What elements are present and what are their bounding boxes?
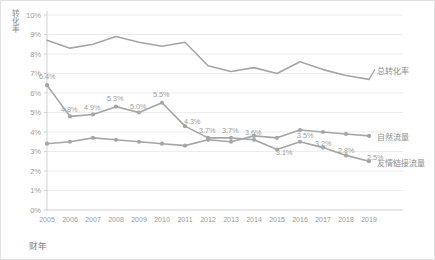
series-leader-line [369,69,375,79]
data-point-marker [344,132,348,136]
line-chart-container: 转化率 财年 0%1%2%3%4%5%6%7%8%9%10% 200520062… [0,0,435,260]
data-point-marker [114,138,118,142]
series-label-0: 总转化率 [377,65,409,76]
data-label: 3.7% [199,126,215,135]
data-point-marker [91,136,95,140]
series-label-2: 自然流量 [377,131,409,142]
data-label: 5.3% [107,94,123,103]
data-point-marker [160,142,164,146]
series-line-1 [47,85,369,161]
data-point-marker [160,101,164,105]
data-label: 6.4% [39,72,55,81]
data-point-marker [229,140,233,144]
data-label: 3.2% [315,139,331,148]
series-line-0 [47,36,369,79]
data-point-marker [114,105,118,109]
series-label-1: 友情链接流量 [377,157,425,168]
data-point-marker [183,144,187,148]
plot-area [1,1,435,260]
data-label: 5.0% [130,102,146,111]
data-point-marker [45,142,49,146]
data-point-marker [252,138,256,142]
data-point-marker [45,83,49,87]
data-point-marker [321,130,325,134]
data-label: 3.6% [245,128,261,137]
data-point-marker [68,140,72,144]
data-label: 3.5% [297,131,313,140]
data-point-marker [137,110,141,114]
data-label: 4.3% [184,117,200,126]
data-point-marker [275,136,279,140]
data-point-marker [137,140,141,144]
data-point-marker [68,114,72,118]
data-label: 3.1% [276,148,292,157]
data-label: 4.9% [84,103,100,112]
data-label: 5.5% [153,90,169,99]
data-point-marker [91,112,95,116]
data-point-marker [206,138,210,142]
data-label: 2.8% [338,146,354,155]
data-point-marker [367,134,371,138]
data-point-marker [229,136,233,140]
data-point-marker [298,140,302,144]
data-label: 3.7% [222,126,238,135]
data-label: 4.8% [61,105,77,114]
